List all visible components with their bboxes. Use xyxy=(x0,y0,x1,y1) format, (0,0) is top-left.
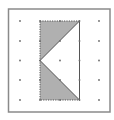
grid-dot xyxy=(79,20,81,22)
grid-dot xyxy=(79,40,81,42)
grid-dot xyxy=(59,79,61,81)
grid-dot xyxy=(39,20,41,22)
grid-dot xyxy=(59,99,61,101)
grid-dot xyxy=(19,40,21,42)
grid-dot xyxy=(79,79,81,81)
geometry-diagram xyxy=(0,0,114,120)
grid-dot xyxy=(59,40,61,42)
grid-dot xyxy=(39,99,41,101)
grid-dot xyxy=(79,60,81,62)
grid-dot xyxy=(39,40,41,42)
grid-dot xyxy=(59,60,61,62)
grid-dot xyxy=(59,20,61,22)
grid-dot xyxy=(19,60,21,62)
grid-dot xyxy=(19,20,21,22)
grid-dot xyxy=(98,60,100,62)
grid-dot xyxy=(98,99,100,101)
grid-dot xyxy=(98,20,100,22)
grid-dot xyxy=(39,60,41,62)
grid-dot xyxy=(19,79,21,81)
grid-dot xyxy=(98,79,100,81)
grid-dot xyxy=(39,79,41,81)
grid-dot xyxy=(98,40,100,42)
grid-dot xyxy=(79,99,81,101)
grid-dot xyxy=(19,99,21,101)
